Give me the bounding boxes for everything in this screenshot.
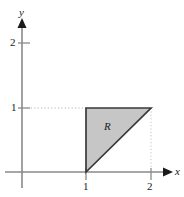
math-figure: 2 1 1 2 y x R: [0, 0, 184, 197]
x-axis-tick-label-1: 1: [83, 181, 89, 192]
y-axis-tick-label-1: 1: [11, 102, 17, 113]
y-axis-arrow-icon: [18, 18, 27, 28]
y-axis-tick-label-2: 2: [10, 37, 16, 48]
x-axis-tick-label-2: 2: [147, 181, 153, 192]
region-label-r: R: [104, 121, 111, 132]
shaded-region-triangle: [86, 108, 151, 172]
x-axis-label: x: [175, 166, 180, 177]
x-axis-arrow-icon: [163, 168, 173, 177]
coordinate-plane-svg: [0, 0, 184, 197]
y-axis-label: y: [19, 7, 24, 18]
